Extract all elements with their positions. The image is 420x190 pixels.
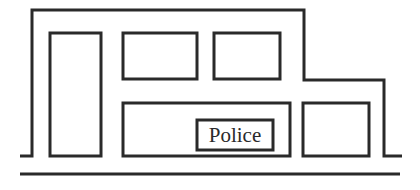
side-window <box>303 103 369 156</box>
upper-window-left <box>123 33 197 79</box>
police-sign-label: Police <box>209 123 262 147</box>
police-sign: Police <box>197 120 273 150</box>
upper-window-right <box>214 33 280 79</box>
police-station-diagram: Police <box>0 0 420 190</box>
door <box>50 33 101 156</box>
storefront-window <box>123 103 290 156</box>
